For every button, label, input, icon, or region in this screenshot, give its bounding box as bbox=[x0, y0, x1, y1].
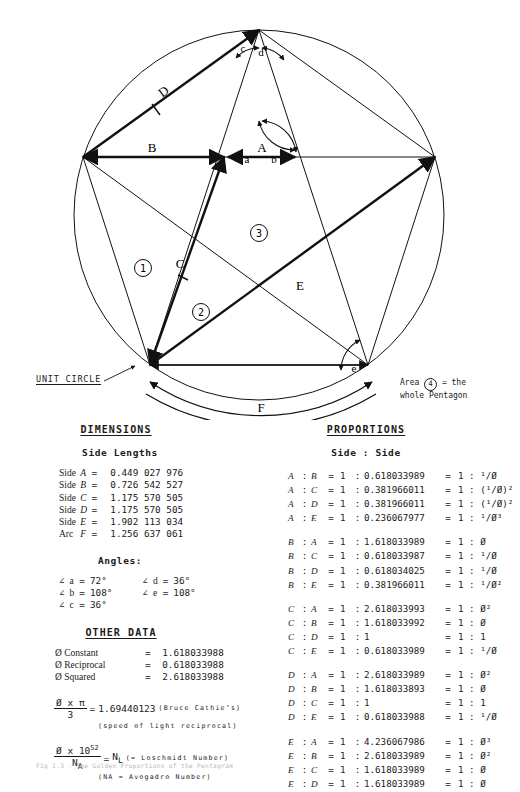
proportions-section: PROPORTIONS Side : Side A:B=1:0.61803398… bbox=[286, 424, 516, 792]
proportion-value: 0.618033987 bbox=[364, 550, 438, 562]
side-length-kind: Side bbox=[58, 467, 77, 479]
proportion-equals-2: = bbox=[440, 512, 456, 524]
proportion-colon: : bbox=[300, 778, 309, 790]
proportion-colon-2: : bbox=[353, 764, 362, 776]
proportion-equals-2: = bbox=[440, 645, 456, 657]
proportion-value: 1 bbox=[364, 697, 438, 709]
proportion-right-side: C bbox=[311, 764, 322, 776]
angle-label-group: a b c d e bbox=[241, 42, 357, 374]
formula-cathie-note2: (speed of light reciprocal) bbox=[98, 721, 272, 732]
proportion-left-side: C bbox=[288, 631, 298, 643]
side-length-kind: Arc bbox=[58, 528, 77, 540]
side-length-name: C bbox=[77, 492, 91, 504]
angle-equals-2: = bbox=[162, 575, 173, 587]
svg-text:1: 1 bbox=[140, 263, 146, 274]
proportion-ratio: 1 : (¹/Ø)² bbox=[458, 484, 513, 496]
proportion-colon: : bbox=[300, 550, 309, 562]
formula-loschmidt-numerator-exp: 52 bbox=[90, 743, 98, 751]
proportions-heading: PROPORTIONS bbox=[286, 424, 446, 435]
proportion-equals: = bbox=[324, 778, 338, 790]
proportion-left-side: E bbox=[288, 764, 298, 776]
proportion-left-side: B bbox=[288, 536, 298, 548]
proportions-group-gap bbox=[288, 526, 513, 534]
proportion-equals: = bbox=[324, 764, 338, 776]
proportion-right-side: B bbox=[311, 470, 322, 482]
proportion-colon: : bbox=[300, 617, 309, 629]
side-length-equals: = bbox=[91, 467, 99, 479]
formula-loschmidt-numerator: Ø x 1052 bbox=[54, 745, 101, 757]
other-data-row: Ø Constant= 1.618033988 bbox=[54, 647, 229, 659]
proportion-left-side: C bbox=[288, 617, 298, 629]
proportion-row: E:B=1:2.618033989=1 : Ø² bbox=[288, 750, 513, 762]
angle-name: c bbox=[69, 599, 79, 611]
side-length-row: Side E = 1.902 113 034 bbox=[58, 516, 184, 528]
proportion-row: E:A=1:4.236067986=1 : Ø³ bbox=[288, 736, 513, 748]
proportion-right-side: E bbox=[311, 711, 322, 723]
angle-value-2: 36° bbox=[172, 575, 199, 587]
proportion-colon-2: : bbox=[353, 536, 362, 548]
angle-value: 108° bbox=[89, 587, 116, 599]
angle-symbol-2: ∠ bbox=[116, 587, 152, 599]
formula-loschmidt-numerator-text: Ø x 10 bbox=[56, 745, 90, 756]
proportion-left-side: C bbox=[288, 645, 298, 657]
other-data-label: Ø Squared bbox=[54, 671, 144, 683]
proportion-value: 1 bbox=[364, 631, 438, 643]
proportion-row: D:B=1:1.618033893=1 : Ø bbox=[288, 683, 513, 695]
proportion-row: C:A=1:2.618033993=1 : Ø² bbox=[288, 603, 513, 615]
proportion-equals-2: = bbox=[440, 484, 456, 496]
proportion-row: D:A=1:2.618033989=1 : Ø² bbox=[288, 669, 513, 681]
proportion-equals: = bbox=[324, 565, 338, 577]
other-data-value: 1.618033988 bbox=[156, 647, 229, 659]
side-length-kind: Side bbox=[58, 479, 77, 491]
svg-text:d: d bbox=[258, 46, 264, 58]
proportion-equals: = bbox=[324, 536, 338, 548]
proportion-colon: : bbox=[300, 697, 309, 709]
angle-symbol: ∠ bbox=[58, 575, 69, 587]
proportion-value: 1.618033989 bbox=[364, 536, 438, 548]
angle-row: ∠c=36° bbox=[58, 599, 200, 611]
angle-value: 36° bbox=[89, 599, 116, 611]
proportion-right-side: A bbox=[311, 536, 322, 548]
side-length-kind: Side bbox=[58, 492, 77, 504]
angle-equals: = bbox=[78, 575, 89, 587]
proportion-ratio: 1 : Ø² bbox=[458, 669, 513, 681]
proportion-colon: : bbox=[300, 736, 309, 748]
proportion-one: 1 bbox=[340, 512, 351, 524]
side-length-equals: = bbox=[91, 528, 99, 540]
proportion-right-side: D bbox=[311, 565, 322, 577]
proportion-colon: : bbox=[300, 645, 309, 657]
angle-row: ∠a=72°∠d=36° bbox=[58, 575, 200, 587]
proportion-left-side: A bbox=[288, 484, 298, 496]
proportion-value: 0.618034025 bbox=[364, 565, 438, 577]
proportion-colon: : bbox=[300, 579, 309, 591]
proportions-group-gap bbox=[288, 659, 513, 667]
proportion-one: 1 bbox=[340, 470, 351, 482]
svg-text:C: C bbox=[176, 256, 185, 271]
side-length-row: Side A = 0.449 027 976 bbox=[58, 467, 184, 479]
proportion-one: 1 bbox=[340, 736, 351, 748]
proportion-equals: = bbox=[324, 669, 338, 681]
proportion-colon-2: : bbox=[353, 669, 362, 681]
side-length-name: E bbox=[77, 516, 91, 528]
svg-text:a: a bbox=[245, 153, 250, 165]
proportion-equals: = bbox=[324, 736, 338, 748]
proportion-right-side: B bbox=[311, 617, 322, 629]
proportion-colon-2: : bbox=[353, 617, 362, 629]
region-markers: 1 2 3 bbox=[135, 225, 268, 321]
side-length-name: D bbox=[77, 504, 91, 516]
angles-subheading: Angles: bbox=[52, 555, 188, 566]
side-length-row: Side C = 1.175 570 505 bbox=[58, 492, 184, 504]
formula-cathie-denominator: 3 bbox=[54, 709, 87, 720]
proportion-left-side: B bbox=[288, 579, 298, 591]
proportion-colon: : bbox=[300, 669, 309, 681]
area-note: Area 4 = the whole Pentagon bbox=[400, 378, 467, 402]
formula-cathie: Ø x π 3 = 1.69440123 (Bruce Cathie’s) (s… bbox=[54, 697, 272, 732]
svg-text:2: 2 bbox=[198, 307, 204, 318]
proportion-value: 0.381966011 bbox=[364, 579, 438, 591]
proportion-row: C:E=1:0.618033989=1 : ¹/Ø bbox=[288, 645, 513, 657]
side-length-kind: Side bbox=[58, 504, 77, 516]
angle-symbol: ∠ bbox=[58, 599, 69, 611]
proportion-value: 0.618033989 bbox=[364, 645, 438, 657]
proportion-right-side: D bbox=[311, 498, 322, 510]
side-length-value: 0.449 027 976 bbox=[98, 467, 184, 479]
